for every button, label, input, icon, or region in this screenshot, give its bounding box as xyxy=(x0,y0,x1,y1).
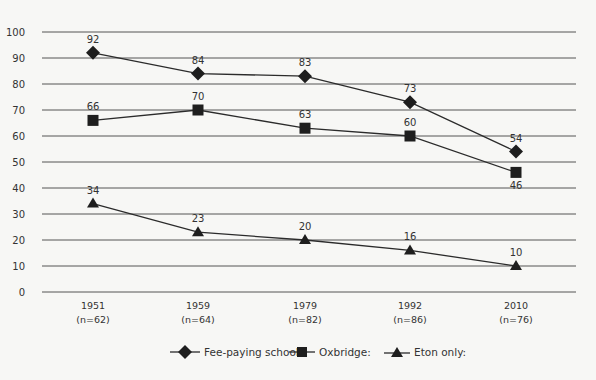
series-diamond: 9284837354 xyxy=(86,34,523,159)
y-tick-label: 50 xyxy=(12,157,25,168)
y-tick-label: 80 xyxy=(12,79,25,90)
triangle-marker-icon xyxy=(384,344,410,360)
legend-label: Eton only: xyxy=(414,346,466,358)
data-label: 16 xyxy=(404,231,417,242)
x-tick-sublabel: (n=62) xyxy=(76,314,109,325)
y-tick-label: 100 xyxy=(6,27,25,38)
triangle-marker-icon xyxy=(87,198,99,208)
data-label: 23 xyxy=(192,213,205,224)
legend-label: Oxbridge: xyxy=(319,346,371,358)
legend-item-eton: Eton only: xyxy=(384,340,466,364)
data-label: 54 xyxy=(510,133,523,144)
data-label: 60 xyxy=(404,117,417,128)
x-axis-ticks: 1951(n=62)1959(n=64)1979(n=82)1992(n=86)… xyxy=(76,300,532,325)
x-tick-label: 1992 xyxy=(398,300,422,311)
x-tick-label: 1959 xyxy=(186,300,210,311)
series: 928483735466706360463423201610 xyxy=(86,34,523,270)
x-tick-sublabel: (n=86) xyxy=(393,314,426,325)
square-marker-icon xyxy=(405,131,416,142)
y-tick-label: 60 xyxy=(12,131,25,142)
square-marker-icon xyxy=(511,167,522,178)
data-label: 92 xyxy=(87,34,100,45)
data-label: 84 xyxy=(192,55,205,66)
x-tick-label: 1951 xyxy=(81,300,105,311)
series-triangle: 3423201610 xyxy=(87,185,523,270)
y-tick-label: 10 xyxy=(12,261,25,272)
data-label: 73 xyxy=(404,83,417,94)
data-label: 66 xyxy=(87,101,100,112)
x-tick-sublabel: (n=64) xyxy=(181,314,214,325)
data-label: 63 xyxy=(299,109,312,120)
triangle-marker-icon xyxy=(299,234,311,244)
series-square: 6670636046 xyxy=(87,91,523,191)
data-label: 20 xyxy=(299,221,312,232)
y-tick-label: 40 xyxy=(12,183,25,194)
legend: Fee-paying schools: Oxbridge: Eton only: xyxy=(0,340,596,364)
diamond-marker-icon xyxy=(403,95,417,109)
data-label: 46 xyxy=(510,180,523,191)
y-tick-label: 90 xyxy=(12,53,25,64)
legend-item-oxbridge: Oxbridge: xyxy=(289,340,371,364)
x-tick-label: 1979 xyxy=(293,300,317,311)
diamond-marker-icon xyxy=(298,69,312,83)
diamond-marker-icon xyxy=(170,344,200,360)
line-chart: 0102030405060708090100 1951(n=62)1959(n=… xyxy=(0,0,596,340)
data-label: 70 xyxy=(192,91,205,102)
diamond-marker-icon xyxy=(509,145,523,159)
data-label: 83 xyxy=(299,57,312,68)
y-axis-ticks: 0102030405060708090100 xyxy=(6,27,25,298)
diamond-marker-icon xyxy=(191,67,205,81)
square-marker-icon xyxy=(289,344,315,360)
y-tick-label: 20 xyxy=(12,235,25,246)
legend-item-fee-paying: Fee-paying schools: xyxy=(170,340,308,364)
square-marker-icon xyxy=(193,105,204,116)
y-tick-label: 30 xyxy=(12,209,25,220)
data-label: 34 xyxy=(87,185,100,196)
x-tick-sublabel: (n=82) xyxy=(288,314,321,325)
x-tick-sublabel: (n=76) xyxy=(499,314,532,325)
series-line xyxy=(93,204,516,266)
y-tick-label: 0 xyxy=(19,287,25,298)
data-label: 10 xyxy=(510,247,523,258)
x-tick-label: 2010 xyxy=(504,300,528,311)
square-marker-icon xyxy=(300,123,311,134)
gridlines xyxy=(42,32,576,292)
square-marker-icon xyxy=(88,115,99,126)
y-tick-label: 70 xyxy=(12,105,25,116)
